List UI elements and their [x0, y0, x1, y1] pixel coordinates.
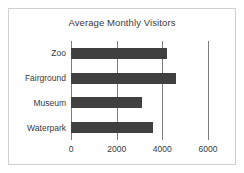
plot-area: ZooFairgroundMuseumWaterpark 02000400060…	[71, 41, 208, 140]
bar-museum	[71, 97, 142, 108]
bar-row: Museum	[71, 91, 208, 116]
category-label-museum: Museum	[33, 98, 66, 108]
bar-fairground	[71, 73, 176, 84]
category-label-waterpark: Waterpark	[27, 123, 66, 133]
x-tick-label-2000: 2000	[107, 144, 126, 154]
gridline-6000	[208, 41, 209, 140]
category-label-fairground: Fairground	[25, 73, 66, 83]
bar-waterpark	[71, 122, 153, 133]
x-tick-label-0: 0	[69, 144, 74, 154]
bar-row: Waterpark	[71, 115, 208, 140]
bar-row: Zoo	[71, 41, 208, 66]
chart-title: Average Monthly Visitors	[0, 17, 244, 28]
x-tick-label-4000: 4000	[153, 144, 172, 154]
x-tick-label-6000: 6000	[199, 144, 218, 154]
chart-card: Average Monthly Visitors ZooFairgroundMu…	[0, 0, 244, 173]
category-label-zoo: Zoo	[51, 48, 66, 58]
bar-zoo	[71, 48, 167, 59]
bar-row: Fairground	[71, 66, 208, 91]
